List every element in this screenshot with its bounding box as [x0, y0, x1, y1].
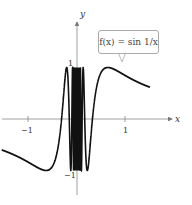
plot-area — [0, 0, 192, 205]
function-callout: f(x) = sin 1/x — [98, 30, 159, 54]
callout-text: f(x) = sin 1/x — [99, 37, 158, 47]
